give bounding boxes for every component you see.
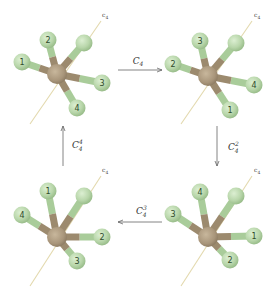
arrow-left: C44 bbox=[63, 126, 83, 166]
ligand-atom-2: 2 bbox=[165, 56, 182, 73]
atom-number-label: 2 bbox=[227, 256, 232, 265]
ligand-atom-unlabeled bbox=[228, 188, 245, 205]
atom-number-label: 1 bbox=[19, 58, 24, 67]
ligand-atom-4: 4 bbox=[69, 100, 86, 117]
c4-axis-label: c4 bbox=[102, 166, 108, 175]
molecule-top-left: c42134 bbox=[14, 11, 111, 124]
ligand-atom-1: 1 bbox=[14, 54, 31, 71]
ligand-atom-4: 4 bbox=[192, 184, 209, 201]
molecule-bottom-right: c44312 bbox=[165, 166, 263, 286]
atom-number-label: 2 bbox=[45, 36, 50, 45]
atom-number-label: 3 bbox=[74, 257, 79, 266]
central-atom bbox=[47, 64, 67, 84]
ligand-atom-4: 4 bbox=[14, 207, 31, 224]
atom-number-label: 4 bbox=[197, 188, 202, 197]
arrow-top: C4 bbox=[118, 56, 162, 70]
atom-number-label: 3 bbox=[170, 210, 175, 219]
arrow-bottom-label: C34 bbox=[136, 204, 147, 218]
ligand-atom-unlabeled bbox=[76, 188, 93, 205]
ligand-atom-3: 3 bbox=[192, 33, 209, 50]
atom-number-label: 1 bbox=[227, 106, 232, 115]
c4-axis-label: c4 bbox=[102, 11, 108, 20]
ligand-atom-1: 1 bbox=[40, 183, 57, 200]
atom-number-label: 4 bbox=[251, 81, 256, 90]
c4-axis-label: c4 bbox=[254, 166, 260, 175]
rotation-cycle-diagram: c42134c43241c41423c44312 C4 C24 C34 C44 bbox=[0, 0, 278, 288]
molecules-layer: c42134c43241c41423c44312 bbox=[14, 11, 263, 286]
ligand-atom-2: 2 bbox=[222, 252, 239, 269]
atom-number-label: 4 bbox=[19, 211, 24, 220]
c4-axis-label: c4 bbox=[254, 11, 260, 20]
ligand-atom-1: 1 bbox=[246, 228, 263, 245]
central-atom bbox=[198, 66, 218, 86]
arrow-right-label: C24 bbox=[228, 140, 239, 154]
arrow-left-label: C44 bbox=[72, 138, 83, 152]
atom-number-label: 1 bbox=[45, 187, 50, 196]
atom-number-label: 4 bbox=[74, 104, 79, 113]
central-atom bbox=[47, 227, 67, 247]
ligand-atom-unlabeled bbox=[76, 35, 93, 52]
ligand-atom-3: 3 bbox=[69, 253, 86, 270]
ligand-atom-4: 4 bbox=[246, 77, 263, 94]
ligand-atom-3: 3 bbox=[94, 75, 111, 92]
ligand-atom-2: 2 bbox=[40, 32, 57, 49]
arrow-bottom: C34 bbox=[118, 204, 162, 222]
ligand-atom-3: 3 bbox=[165, 206, 182, 223]
ligand-atom-1: 1 bbox=[222, 102, 239, 119]
molecule-bottom-left: c41423 bbox=[14, 166, 111, 286]
atom-number-label: 3 bbox=[197, 37, 202, 46]
atom-number-label: 1 bbox=[251, 232, 256, 241]
atom-number-label: 2 bbox=[99, 233, 104, 242]
ligand-atom-unlabeled bbox=[228, 35, 245, 52]
atom-number-label: 2 bbox=[170, 60, 175, 69]
arrow-right: C24 bbox=[217, 126, 239, 166]
ligand-atom-2: 2 bbox=[94, 229, 111, 246]
atom-number-label: 3 bbox=[99, 79, 104, 88]
central-atom bbox=[198, 227, 218, 247]
molecule-top-right: c43241 bbox=[165, 11, 263, 124]
arrow-top-label: C4 bbox=[133, 56, 144, 67]
